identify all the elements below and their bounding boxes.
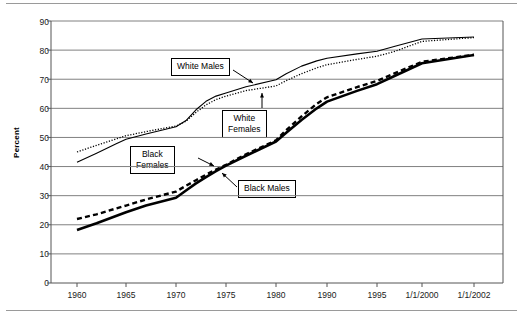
series-line-black-males	[77, 55, 474, 230]
series-line-white-males	[77, 37, 474, 162]
arrow-white-females-head	[260, 93, 264, 98]
series-line-white-females	[77, 38, 474, 152]
tick-marks	[47, 21, 474, 287]
gridlines	[51, 21, 503, 254]
chart-figure: Percent 90 80 70 60 50 40 30 20 10 0 196…	[0, 0, 523, 324]
chart-plot-area	[0, 0, 523, 324]
data-series-group	[77, 37, 474, 230]
callout-arrows	[198, 70, 264, 187]
